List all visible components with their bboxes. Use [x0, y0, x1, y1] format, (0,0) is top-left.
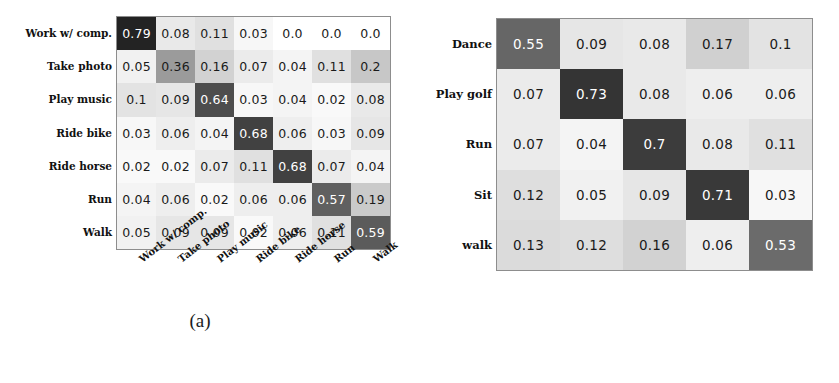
- heatmap-row: 0.020.020.070.110.680.070.04: [117, 150, 390, 183]
- figure-root: Work w/ comp.Take photoPlay musicRide bi…: [0, 0, 839, 383]
- heatmap-cell: 0.19: [351, 183, 390, 216]
- heatmap-cell: 0.06: [686, 69, 749, 119]
- row-label: walk: [420, 220, 492, 270]
- heatmap-cell: 0.53: [749, 220, 812, 270]
- heatmap-b: 0.550.090.080.170.10.070.730.080.060.060…: [497, 19, 812, 270]
- heatmap-row: 0.070.730.080.060.06: [497, 69, 812, 119]
- heatmap-cell: 0.0: [273, 17, 312, 50]
- confusion-matrix-panel-a: Work w/ comp.Take photoPlay musicRide bi…: [0, 0, 420, 383]
- heatmap-cell: 0.64: [195, 83, 234, 116]
- heatmap-cell: 0.03: [117, 117, 156, 150]
- heatmap-cell: 0.06: [273, 117, 312, 150]
- heatmap-cell: 0.1: [749, 19, 812, 69]
- heatmap-cell: 0.08: [351, 83, 390, 116]
- heatmap-cell: 0.11: [312, 50, 351, 83]
- row-label: Sit: [420, 170, 492, 220]
- heatmap-a-wrap: 0.790.080.110.030.00.00.00.050.360.160.0…: [117, 17, 390, 249]
- row-labels-a: Work w/ comp.Take photoPlay musicRide bi…: [0, 17, 112, 249]
- heatmap-cell: 0.09: [351, 117, 390, 150]
- heatmap-cell: 0.07: [497, 69, 560, 119]
- heatmap-cell: 0.68: [234, 117, 273, 150]
- heatmap-cell: 0.08: [156, 17, 195, 50]
- heatmap-cell: 0.09: [560, 19, 623, 69]
- heatmap-cell: 0.13: [497, 220, 560, 270]
- row-label: Run: [0, 183, 112, 216]
- heatmap-b-wrap: 0.550.090.080.170.10.070.730.080.060.060…: [497, 19, 812, 270]
- row-label: Play golf: [420, 69, 492, 119]
- heatmap-cell: 0.11: [234, 150, 273, 183]
- heatmap-cell: 0.07: [234, 50, 273, 83]
- confusion-matrix-panel-b: DancePlay golfRunSitwalk 0.550.090.080.1…: [420, 0, 839, 383]
- heatmap-cell: 0.1: [117, 83, 156, 116]
- heatmap-row: 0.130.120.160.060.53: [497, 220, 812, 270]
- heatmap-cell: 0.11: [749, 119, 812, 169]
- heatmap-cell: 0.71: [686, 170, 749, 220]
- row-label: Dance: [420, 19, 492, 69]
- heatmap-cell: 0.03: [312, 117, 351, 150]
- heatmap-cell: 0.11: [195, 17, 234, 50]
- heatmap-cell: 0.09: [623, 170, 686, 220]
- heatmap-cell: 0.08: [623, 19, 686, 69]
- heatmap-cell: 0.17: [686, 19, 749, 69]
- heatmap-cell: 0.12: [560, 220, 623, 270]
- heatmap-cell: 0.06: [156, 117, 195, 150]
- heatmap-cell: 0.55: [497, 19, 560, 69]
- heatmap-cell: 0.08: [686, 119, 749, 169]
- heatmap-cell: 0.79: [117, 17, 156, 50]
- row-label: Play music: [0, 83, 112, 116]
- heatmap-cell: 0.16: [195, 50, 234, 83]
- row-label: Run: [420, 119, 492, 169]
- heatmap-cell: 0.05: [560, 170, 623, 220]
- heatmap-cell: 0.16: [623, 220, 686, 270]
- heatmap-cell: 0.03: [234, 83, 273, 116]
- heatmap-row: 0.10.090.640.030.040.020.08: [117, 83, 390, 116]
- row-label: Ride horse: [0, 150, 112, 183]
- heatmap-cell: 0.06: [273, 183, 312, 216]
- heatmap-row: 0.070.040.70.080.11: [497, 119, 812, 169]
- heatmap-cell: 0.04: [117, 183, 156, 216]
- heatmap-cell: 0.06: [749, 69, 812, 119]
- heatmap-cell: 0.04: [560, 119, 623, 169]
- heatmap-row: 0.040.060.020.060.060.570.19: [117, 183, 390, 216]
- heatmap-cell: 0.07: [312, 150, 351, 183]
- heatmap-cell: 0.02: [117, 150, 156, 183]
- heatmap-cell: 0.08: [623, 69, 686, 119]
- heatmap-cell: 0.07: [497, 119, 560, 169]
- heatmap-cell: 0.7: [623, 119, 686, 169]
- heatmap-cell: 0.2: [351, 50, 390, 83]
- heatmap-cell: 0.03: [749, 170, 812, 220]
- heatmap-cell: 0.0: [351, 17, 390, 50]
- row-label: Take photo: [0, 50, 112, 83]
- heatmap-cell: 0.36: [156, 50, 195, 83]
- heatmap-row: 0.050.360.160.070.040.110.2: [117, 50, 390, 83]
- heatmap-row: 0.120.050.090.710.03: [497, 170, 812, 220]
- heatmap-row: 0.550.090.080.170.1: [497, 19, 812, 69]
- heatmap-cell: 0.05: [117, 50, 156, 83]
- heatmap-cell: 0.04: [273, 50, 312, 83]
- heatmap-cell: 0.06: [234, 183, 273, 216]
- heatmap-cell: 0.04: [195, 117, 234, 150]
- heatmap-cell: 0.06: [156, 183, 195, 216]
- heatmap-a: 0.790.080.110.030.00.00.00.050.360.160.0…: [117, 17, 390, 249]
- row-label: Ride bike: [0, 117, 112, 150]
- row-label: Walk: [0, 216, 112, 249]
- row-labels-b: DancePlay golfRunSitwalk: [420, 19, 492, 270]
- heatmap-cell: 0.57: [312, 183, 351, 216]
- heatmap-row: 0.030.060.040.680.060.030.09: [117, 117, 390, 150]
- heatmap-row: 0.790.080.110.030.00.00.0: [117, 17, 390, 50]
- heatmap-cell: 0.09: [156, 83, 195, 116]
- heatmap-cell: 0.68: [273, 150, 312, 183]
- heatmap-cell: 0.02: [312, 83, 351, 116]
- column-labels-a: Work w/ comp.Take photoPlay musicRide bi…: [117, 256, 407, 316]
- subcaption-a: (a): [140, 310, 260, 332]
- heatmap-cell: 0.12: [497, 170, 560, 220]
- heatmap-cell: 0.04: [351, 150, 390, 183]
- heatmap-cell: 0.02: [156, 150, 195, 183]
- heatmap-cell: 0.0: [312, 17, 351, 50]
- heatmap-cell: 0.73: [560, 69, 623, 119]
- heatmap-cell: 0.04: [273, 83, 312, 116]
- heatmap-cell: 0.07: [195, 150, 234, 183]
- heatmap-cell: 0.06: [686, 220, 749, 270]
- heatmap-b-body: 0.550.090.080.170.10.070.730.080.060.060…: [497, 19, 812, 270]
- heatmap-cell: 0.03: [234, 17, 273, 50]
